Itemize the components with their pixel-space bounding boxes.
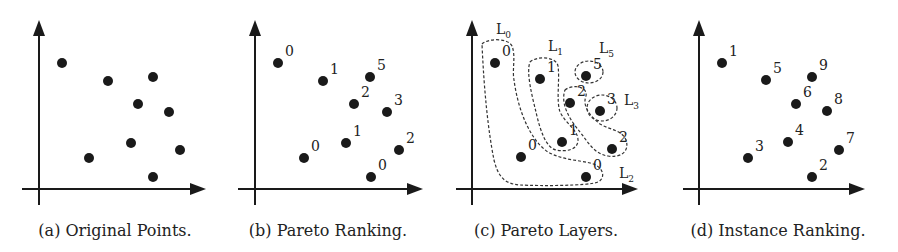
data-point [490,58,500,68]
panel-b: 015231020 (b) Pareto Ranking. [238,20,423,240]
data-point [822,106,832,116]
data-point [148,172,158,182]
point-rank-label: 2 [577,83,586,99]
point-rank-label: 5 [773,60,782,76]
point-rank-label: 8 [834,91,843,107]
data-point [743,153,753,163]
point-rank-label: 6 [803,84,812,100]
x-axis-arrow-icon [190,183,206,195]
point-rank-label: 5 [593,56,602,72]
data-point [382,107,392,117]
data-point [783,137,793,147]
y-axis-arrow-icon [693,20,705,36]
data-point [84,153,94,163]
point-rank-label: 1 [547,59,556,75]
caption: (d) Instance Ranking. [690,221,865,240]
data-point [175,145,185,155]
data-point [557,137,567,147]
data-point [148,72,158,82]
point-rank-label: 0 [593,157,602,173]
panel-d: 159684372 (d) Instance Ranking. [683,20,866,240]
point-rank-label: 7 [846,130,855,146]
point-rank-label: 2 [361,84,370,100]
caption: (c) Pareto Layers. [474,221,618,240]
data-point [807,172,817,182]
data-point [516,152,526,162]
point-rank-label: 3 [755,138,764,154]
point-rank-label: 1 [569,122,578,138]
point-rank-label: 9 [819,57,828,73]
layer-label-l0: L0 [496,21,511,40]
data-point [103,76,113,86]
data-point [126,138,136,148]
point-rank-label: 0 [285,43,294,59]
layer-label-l2: L2 [619,165,634,184]
x-axis-arrow-icon [622,183,638,195]
data-point [834,145,844,155]
data-point [318,76,328,86]
data-point [565,98,575,108]
data-point [581,71,591,81]
point-rank-label: 5 [377,57,386,73]
point-rank-label: 2 [619,129,628,145]
point-rank-label: 4 [795,122,804,138]
data-point [394,145,404,155]
caption: (b) Pareto Ranking. [249,221,407,240]
data-point [761,75,771,85]
point-rank-label: 0 [528,137,537,153]
data-point [791,99,801,109]
data-point [366,172,376,182]
y-axis-arrow-icon [466,20,478,36]
panel-c: L0 L1 L5 L3 L2 015231020 (c) Pareto Laye… [456,20,639,240]
point-rank-label: 2 [819,157,828,173]
figure: (a) Original Points. 015231020 (b) Paret… [0,0,898,252]
point-rank-label: 3 [607,91,616,107]
layer-label-l3: L3 [624,92,639,111]
point-rank-label: 0 [502,43,511,59]
point-rank-label: 1 [353,123,362,139]
y-axis-arrow-icon [249,20,261,36]
data-point [349,99,359,109]
point-rank-label: 3 [394,92,403,108]
data-point [57,58,67,68]
data-point [133,99,143,109]
x-axis-arrow-icon [407,183,423,195]
points [57,58,185,182]
point-rank-label: 2 [406,130,415,146]
points: 159684372 [717,43,855,182]
points: 015231020 [273,43,415,182]
points: 015231020 [490,43,628,182]
x-axis-arrow-icon [849,183,865,195]
point-rank-label: 1 [330,61,339,77]
data-point [535,74,545,84]
data-point [581,172,591,182]
data-point [365,72,375,82]
layer-label-l1: L1 [548,38,563,57]
data-point [595,106,605,116]
data-point [717,58,727,68]
point-rank-label: 0 [311,138,320,154]
data-point [164,107,174,117]
y-axis-arrow-icon [33,20,45,36]
data-point [341,138,351,148]
data-point [807,72,817,82]
data-point [273,58,283,68]
data-point [299,153,309,163]
data-point [607,144,617,154]
point-rank-label: 0 [378,157,387,173]
layer-l0-outline [482,40,603,186]
point-rank-label: 1 [729,43,738,59]
caption: (a) Original Points. [38,221,191,240]
panel-a: (a) Original Points. [22,20,206,240]
